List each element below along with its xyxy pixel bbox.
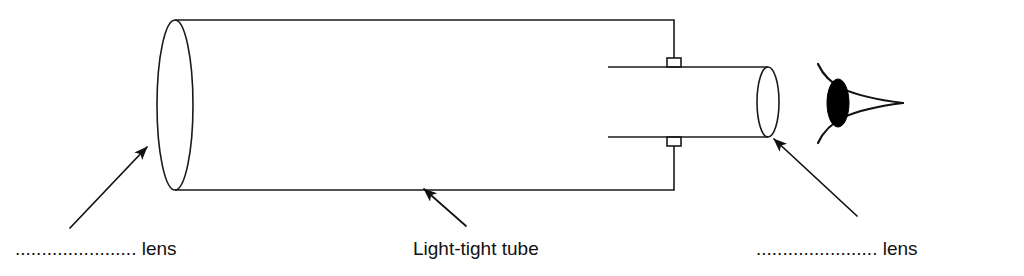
labels-group: ....................... lens Light-tight…	[15, 238, 918, 259]
arrows-group	[70, 139, 857, 228]
diagram-canvas: ....................... lens Light-tight…	[0, 0, 1024, 276]
eyepiece-lens-icon	[757, 67, 779, 137]
eyepiece-lens-label: ....................... lens	[756, 238, 918, 259]
objective-lens-arrow	[70, 147, 147, 228]
objective-lens-icon	[157, 20, 193, 190]
top-bracket-icon	[667, 58, 681, 67]
main-tube-bottom-edge	[175, 146, 674, 190]
eyepiece-lens-arrow	[774, 139, 857, 216]
tube-arrow	[424, 189, 466, 226]
eye-pupil-icon	[827, 79, 849, 127]
bottom-bracket-icon	[667, 137, 681, 146]
main-tube-top-edge	[175, 20, 674, 58]
telescope-diagram-figure: ....................... lens Light-tight…	[0, 0, 1024, 276]
brackets-group	[667, 58, 681, 146]
objective-lens-label: ....................... lens	[15, 238, 177, 259]
main-tube-group	[175, 20, 674, 190]
light-tight-tube-label: Light-tight tube	[413, 238, 539, 259]
objective-lens-group	[157, 20, 193, 190]
eyepiece-tube-group	[608, 67, 779, 137]
observer-eye-group	[818, 64, 903, 143]
